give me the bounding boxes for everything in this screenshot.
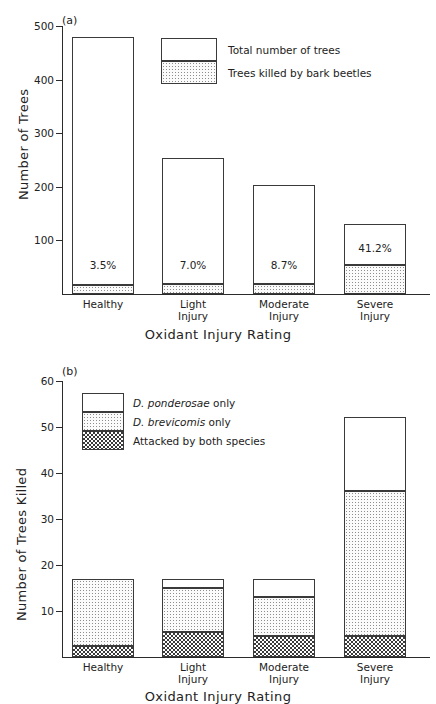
y-ticklabel-b-20: 20 — [30, 559, 54, 571]
bar-b-moderate-ponderosae — [253, 579, 315, 597]
legend-b-label-both: Attacked by both species — [133, 435, 265, 447]
chart-panel-a: (a) Number of Trees 500 400 300 200 100 … — [0, 0, 436, 351]
y-axis-a — [62, 26, 63, 294]
y-tick-a-300 — [56, 133, 63, 134]
y-ticklabel-a-400: 400 — [26, 74, 54, 86]
y-ticklabel-b-30: 30 — [30, 513, 54, 525]
y-ticklabel-a-200: 200 — [26, 181, 54, 193]
bar-a-healthy-total — [72, 37, 134, 285]
bar-a-severe: 41.2% — [344, 224, 406, 294]
legend-b-label-ponderosae: D. ponderosae only — [133, 397, 235, 409]
legend-b-key-ponderosae — [82, 393, 124, 412]
panel-label-a: (a) — [62, 14, 77, 27]
x-axis-label-a: Oxidant Injury Rating — [0, 327, 436, 342]
bar-a-light: 7.0% — [162, 158, 224, 294]
y-ticklabel-a-300: 300 — [26, 127, 54, 139]
bar-b-healthy — [72, 579, 134, 657]
legend-b-key-both — [82, 431, 124, 450]
x-category-a-light: Light Injury — [153, 299, 233, 322]
y-ticklabel-b-40: 40 — [30, 467, 54, 479]
x-category-b-severe: Severe Injury — [335, 662, 415, 685]
y-ticklabel-a-100: 100 — [26, 234, 54, 246]
y-ticklabel-b-60: 60 — [30, 375, 54, 387]
x-category-a-healthy: Healthy — [63, 299, 143, 311]
x-axis-a — [62, 294, 430, 295]
y-tick-b-60 — [56, 381, 63, 382]
bar-b-light-both — [162, 632, 224, 657]
bar-b-severe-both — [344, 636, 406, 657]
x-category-b-healthy: Healthy — [63, 662, 143, 674]
bar-b-healthy-brevicomis — [72, 579, 134, 646]
bar-b-light — [162, 579, 224, 657]
x-category-a-moderate: Moderate Injury — [244, 299, 324, 322]
bar-a-healthy: 3.5% — [72, 37, 134, 294]
y-tick-a-400 — [56, 80, 63, 81]
y-tick-b-30 — [56, 519, 63, 520]
y-tick-a-100 — [56, 240, 63, 241]
x-category-b-light: Light Injury — [153, 662, 233, 685]
y-axis-label-b: Number of Trees Killed — [14, 468, 29, 621]
bar-b-severe-brevicomis — [344, 491, 406, 636]
bar-b-severe-ponderosae — [344, 417, 406, 491]
bar-a-moderate: 8.7% — [253, 185, 315, 294]
y-tick-a-500 — [56, 26, 63, 27]
bar-a-severe-pct: 41.2% — [344, 242, 406, 254]
legend-a-label-total: Total number of trees — [228, 44, 340, 56]
x-category-b-moderate: Moderate Injury — [244, 662, 324, 685]
legend-a-label-killed: Trees killed by bark beetles — [228, 67, 372, 79]
y-tick-b-20 — [56, 565, 63, 566]
legend-a-key-killed — [161, 61, 217, 84]
y-tick-b-40 — [56, 473, 63, 474]
legend-b-label-brevicomis-rest: only — [205, 416, 231, 428]
bar-a-severe-killed — [344, 265, 406, 294]
bar-b-moderate-brevicomis — [253, 597, 315, 636]
bar-b-severe — [344, 417, 406, 657]
legend-b-label-ponderosae-italic: D. ponderosae — [133, 397, 210, 409]
y-tick-a-200 — [56, 187, 63, 188]
bar-a-light-pct: 7.0% — [162, 259, 224, 271]
panel-label-b: (b) — [62, 365, 78, 378]
y-ticklabel-b-50: 50 — [30, 421, 54, 433]
bar-a-moderate-pct: 8.7% — [253, 259, 315, 271]
bar-a-light-killed — [162, 284, 224, 294]
x-axis-b — [62, 657, 430, 658]
bar-b-light-ponderosae — [162, 579, 224, 588]
y-tick-b-10 — [56, 611, 63, 612]
y-ticklabel-b-10: 10 — [30, 605, 54, 617]
bar-a-moderate-killed — [253, 284, 315, 294]
bar-b-light-brevicomis — [162, 588, 224, 632]
x-category-a-severe: Severe Injury — [335, 299, 415, 322]
y-tick-b-50 — [56, 427, 63, 428]
bar-b-moderate-both — [253, 636, 315, 657]
bar-b-moderate — [253, 579, 315, 657]
y-ticklabel-a-500: 500 — [26, 20, 54, 32]
legend-b-label-ponderosae-rest: only — [210, 397, 236, 409]
bar-a-healthy-killed — [72, 285, 134, 294]
bar-a-healthy-pct: 3.5% — [72, 259, 134, 271]
legend-b-label-brevicomis-italic: D. brevicomis — [133, 416, 205, 428]
chart-panel-b: (b) Number of Trees Killed 60 50 40 30 2… — [0, 351, 436, 702]
legend-b-label-both-rest: Attacked by both species — [133, 435, 265, 447]
legend-a-key-total — [161, 38, 217, 61]
x-axis-label-b: Oxidant Injury Rating — [0, 689, 436, 704]
legend-b-label-brevicomis: D. brevicomis only — [133, 416, 231, 428]
legend-b-key-brevicomis — [82, 412, 124, 431]
bar-b-healthy-both — [72, 646, 134, 657]
